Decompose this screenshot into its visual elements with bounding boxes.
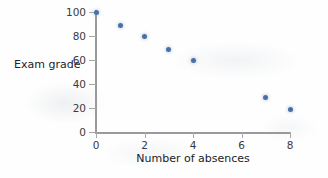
data-point [191, 58, 196, 63]
data-point [118, 23, 123, 28]
plot-area: 020406080100 02468 [96, 12, 290, 132]
data-point [94, 10, 99, 15]
y-tick-label: 80 [73, 31, 86, 42]
y-tick-label: 100 [66, 7, 86, 18]
y-tick-mark [89, 84, 96, 85]
x-tick-label: 8 [287, 140, 294, 151]
x-tick-label: 0 [93, 140, 100, 151]
y-tick-label: 20 [73, 103, 86, 114]
y-tick-mark [89, 36, 96, 37]
x-tick-mark [145, 132, 146, 138]
x-tick-mark [290, 132, 291, 138]
y-tick-label: 60 [73, 55, 86, 66]
x-tick-mark [96, 132, 97, 138]
y-tick-label: 0 [79, 127, 86, 138]
y-tick-mark [89, 132, 96, 133]
data-point [142, 34, 147, 39]
x-tick-label: 4 [190, 140, 197, 151]
y-tick-mark [89, 108, 96, 109]
data-point [288, 107, 293, 112]
x-tick-mark [193, 132, 194, 138]
y-tick-label: 40 [73, 79, 86, 90]
y-axis-line [95, 10, 97, 134]
x-tick-label: 6 [238, 140, 245, 151]
y-axis-title: Exam grade [14, 58, 80, 71]
x-tick-mark [242, 132, 243, 138]
scatter-plot-figure: Exam grade Number of absences 0204060801… [0, 0, 328, 178]
y-tick-mark [89, 60, 96, 61]
x-axis-title: Number of absences [96, 152, 290, 165]
x-tick-label: 2 [141, 140, 148, 151]
data-point [263, 95, 268, 100]
data-point [166, 47, 171, 52]
